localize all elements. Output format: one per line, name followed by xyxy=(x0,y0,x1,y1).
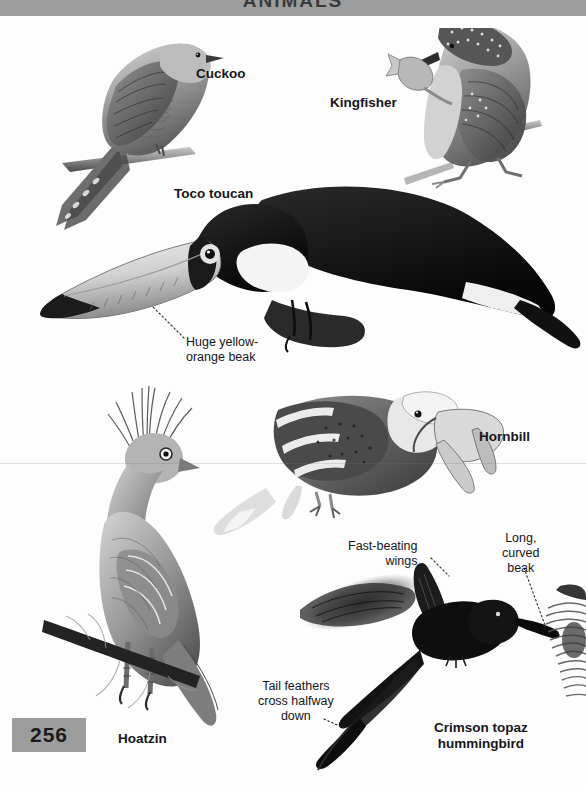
flower-illustration xyxy=(546,584,586,696)
annotation-tail-feathers: Tail feathers cross halfway down xyxy=(258,679,334,723)
leader-wings xyxy=(431,558,449,576)
torn-paper-edge xyxy=(0,16,586,28)
leader-long-beak xyxy=(524,568,546,628)
species-label-crimson-topaz-hummingbird: Crimson topaz hummingbird xyxy=(434,720,528,752)
species-label-toco-toucan: Toco toucan xyxy=(174,186,253,202)
species-label-cuckoo: Cuckoo xyxy=(196,66,246,82)
book-page: ANIMALS Cuckoo Kingfisher Toco toucan Ho… xyxy=(0,0,586,788)
species-label-hornbill: Hornbill xyxy=(479,429,530,445)
page-number-box: 256 xyxy=(12,718,86,752)
bird-illustrations xyxy=(0,0,586,788)
kingfisher-illustration xyxy=(386,21,542,188)
hoatzin-illustration xyxy=(42,386,218,726)
annotation-long-curved-beak: Long, curved beak xyxy=(502,531,540,575)
page-number: 256 xyxy=(30,723,68,747)
scan-fold-line xyxy=(0,463,586,464)
page-header-band: ANIMALS xyxy=(0,0,586,28)
species-label-hoatzin: Hoatzin xyxy=(118,731,167,747)
species-label-kingfisher: Kingfisher xyxy=(330,95,397,111)
annotation-toucan-beak: Huge yellow- orange beak xyxy=(186,335,258,365)
page-header-title: ANIMALS xyxy=(0,0,586,12)
annotation-fast-beating-wings: Fast-beating wings xyxy=(348,539,417,569)
leader-lines xyxy=(152,306,546,728)
toucan-illustration xyxy=(40,187,580,352)
leader-toucan-beak xyxy=(152,306,184,338)
